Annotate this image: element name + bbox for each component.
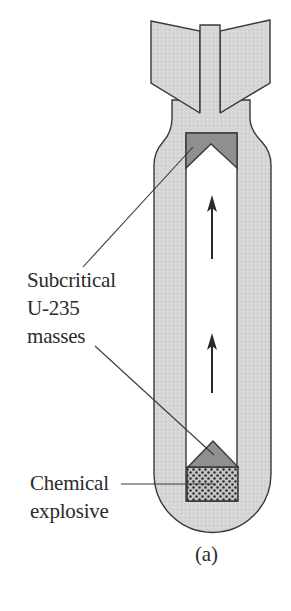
label-chemical: Chemical [30, 471, 109, 496]
right-tail-fin [220, 20, 270, 113]
label-masses: masses [27, 324, 85, 349]
label-subcritical: Subcritical [27, 268, 116, 293]
left-tail-fin [151, 21, 200, 113]
tail-center-post [200, 25, 220, 135]
label-explosive: explosive [30, 499, 109, 524]
figure-caption: (a) [195, 542, 218, 567]
label-u235: U-235 [27, 296, 80, 321]
